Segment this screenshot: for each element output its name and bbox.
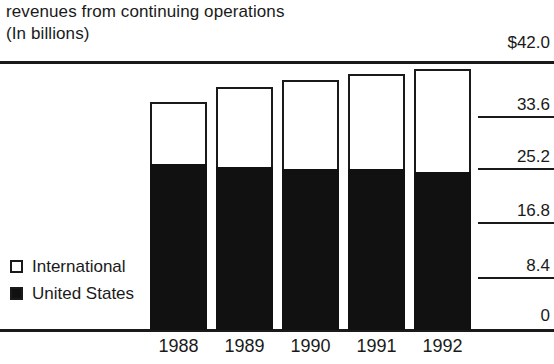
- bar-segment-united-states-1989: [216, 167, 273, 330]
- bar-segment-united-states-1990: [282, 169, 339, 330]
- chart-title-block: revenues from continuing operations (In …: [6, 1, 436, 45]
- chart-subtitle: (In billions): [6, 23, 436, 45]
- chart-figure: revenues from continuing operations (In …: [0, 0, 554, 364]
- x-axis-tick-1989: 1989: [216, 334, 273, 358]
- legend-item-united-states: United States: [10, 280, 134, 307]
- x-axis-tick-1988: 1988: [150, 334, 207, 358]
- bar-segment-international-1990: [282, 80, 339, 170]
- y-axis-tick-42: $42.0: [507, 33, 550, 53]
- x-axis-tick-1992: 1992: [414, 334, 471, 358]
- page-title: revenues from continuing operations: [6, 1, 436, 23]
- bar-segment-international-1992: [414, 69, 471, 174]
- x-axis-tick-1991: 1991: [348, 334, 405, 358]
- legend-label-international: International: [32, 257, 126, 277]
- x-axis-tick-1990: 1990: [282, 334, 339, 358]
- bar-segment-united-states-1991: [348, 169, 405, 330]
- bar-segment-international-1988: [150, 102, 207, 166]
- chart-legend: International United States: [10, 253, 134, 307]
- legend-item-international: International: [10, 253, 134, 280]
- bar-segment-international-1991: [348, 74, 405, 171]
- bar-segment-international-1989: [216, 87, 273, 170]
- hollow-square-icon: [10, 260, 23, 273]
- filled-square-icon: [10, 287, 23, 300]
- legend-label-united-states: United States: [32, 284, 134, 304]
- bar-segment-united-states-1992: [414, 172, 471, 330]
- bar-segment-united-states-1988: [150, 164, 207, 330]
